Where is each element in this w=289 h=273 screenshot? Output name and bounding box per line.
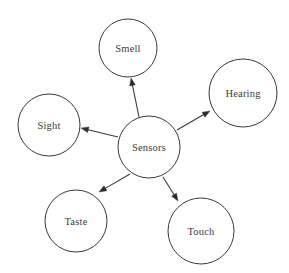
edge-sensors-to-taste <box>104 174 130 189</box>
node-label-sensors: Sensors <box>132 142 166 153</box>
arrowhead-hearing <box>202 111 210 117</box>
edge-sensors-to-smell <box>132 84 139 117</box>
node-label-hearing: Hearing <box>225 88 261 99</box>
edge-sensors-to-touch <box>163 177 175 196</box>
diagram-canvas: SmellHearingSightTasteTouchSensors <box>0 0 289 273</box>
node-hearing[interactable]: Hearing <box>209 59 277 127</box>
node-label-taste: Taste <box>64 216 87 227</box>
sensors-diagram: SmellHearingSightTasteTouchSensors <box>0 0 289 273</box>
arrowhead-touch <box>172 193 178 201</box>
arrowhead-taste <box>99 186 107 192</box>
node-label-touch: Touch <box>187 226 215 237</box>
arrowhead-sight <box>81 127 89 133</box>
node-sensors[interactable]: Sensors <box>118 116 180 178</box>
node-label-sight: Sight <box>37 120 60 131</box>
node-smell[interactable]: Smell <box>99 19 157 77</box>
node-sight[interactable]: Sight <box>18 94 80 156</box>
node-taste[interactable]: Taste <box>45 190 107 252</box>
arrowhead-smell <box>130 78 136 86</box>
edge-sensors-to-hearing <box>177 114 205 130</box>
edge-sensors-to-sight <box>87 129 118 137</box>
node-touch[interactable]: Touch <box>168 198 234 264</box>
nodes-group: SmellHearingSightTasteTouchSensors <box>18 19 277 264</box>
node-label-smell: Smell <box>115 43 141 54</box>
